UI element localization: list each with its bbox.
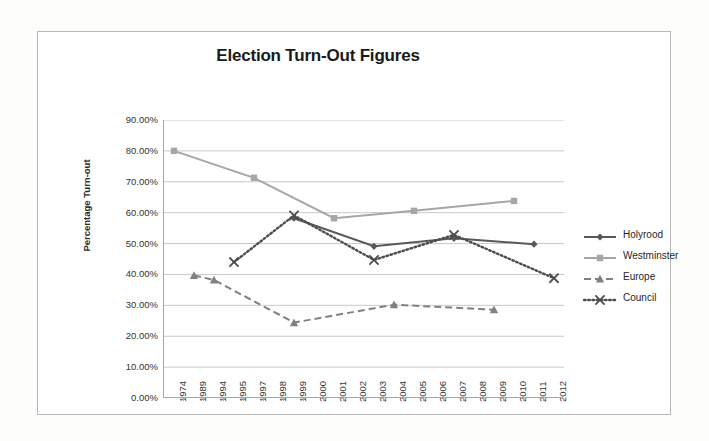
legend-item-europe[interactable]: Europe	[583, 266, 703, 287]
x-tick-mark	[323, 398, 324, 401]
series-holyrood	[290, 215, 537, 250]
chart-frame: Election Turn-Out Figures Percentage Tur…	[37, 31, 671, 415]
x-tick-mark	[223, 398, 224, 401]
x-tick-mark	[283, 398, 284, 401]
data-point-marker	[251, 175, 257, 181]
x-tick-mark	[363, 398, 364, 401]
legend-label: Council	[623, 292, 656, 303]
y-tick-label: 70.00%	[90, 176, 158, 187]
data-point-marker	[411, 208, 417, 214]
series-westminster	[171, 148, 517, 222]
y-tick-label: 50.00%	[90, 238, 158, 249]
legend-label: Europe	[623, 271, 655, 282]
scanned-page: Election Turn-Out Figures Percentage Tur…	[0, 0, 709, 441]
series-council	[229, 211, 558, 283]
series-line	[234, 215, 554, 278]
x-tick-mark	[463, 398, 464, 401]
legend-key-icon	[583, 229, 617, 241]
x-tick-mark	[343, 398, 344, 401]
series-line	[174, 151, 514, 218]
x-tick-mark	[243, 398, 244, 401]
y-tick-label: 0.00%	[90, 392, 158, 403]
y-tick-label: 60.00%	[90, 207, 158, 218]
legend-item-holyrood[interactable]: Holyrood	[583, 224, 703, 245]
y-tick-label: 90.00%	[90, 114, 158, 125]
legend-key-icon	[583, 271, 617, 283]
x-tick-mark	[423, 398, 424, 401]
x-tick-mark	[483, 398, 484, 401]
x-tick-mark	[403, 398, 404, 401]
y-tick-label: 10.00%	[90, 361, 158, 372]
y-tick-label: 80.00%	[90, 145, 158, 156]
data-point-marker	[171, 148, 177, 154]
y-tick-label: 40.00%	[90, 268, 158, 279]
x-tick-mark	[503, 398, 504, 401]
legend-item-council[interactable]: Council	[583, 287, 703, 308]
series-line	[294, 218, 534, 246]
x-tick-mark	[543, 398, 544, 401]
data-point-marker	[229, 257, 238, 266]
x-tick-mark	[523, 398, 524, 401]
x-tick-mark	[263, 398, 264, 401]
x-tick-mark	[383, 398, 384, 401]
x-tick-mark	[203, 398, 204, 401]
plot-area	[163, 120, 563, 398]
x-tick-mark	[303, 398, 304, 401]
data-point-marker	[369, 255, 378, 264]
legend-item-westminster[interactable]: Westminster	[583, 245, 703, 266]
x-tick-mark	[563, 398, 564, 401]
legend-label: Westminster	[623, 250, 678, 261]
y-tick-label: 30.00%	[90, 299, 158, 310]
data-point-marker	[530, 241, 537, 248]
x-tick-mark	[183, 398, 184, 401]
legend-key-icon	[583, 292, 617, 304]
x-tick-mark	[443, 398, 444, 401]
data-point-marker	[331, 215, 337, 221]
chart-legend: HolyroodWestminsterEuropeCouncil	[583, 224, 703, 308]
series-line	[194, 275, 494, 322]
data-point-marker	[511, 198, 517, 204]
legend-key-icon	[583, 250, 617, 262]
legend-label: Holyrood	[623, 229, 663, 240]
y-tick-label: 20.00%	[90, 330, 158, 341]
plot-svg	[164, 120, 564, 398]
series-europe	[190, 271, 498, 326]
chart-title: Election Turn-Out Figures	[38, 46, 598, 66]
